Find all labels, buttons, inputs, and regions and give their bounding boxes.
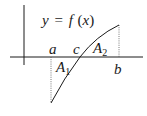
point-c-label: c	[73, 41, 80, 57]
point-b-label: b	[114, 61, 122, 77]
integral-diagram: y = f (x) a c b A1 A2	[0, 0, 147, 116]
function-label: y = f (x)	[40, 12, 94, 29]
point-a-label: a	[49, 41, 57, 57]
area-a2-label: A2	[92, 40, 107, 58]
area-a1-label: A1	[55, 59, 70, 77]
